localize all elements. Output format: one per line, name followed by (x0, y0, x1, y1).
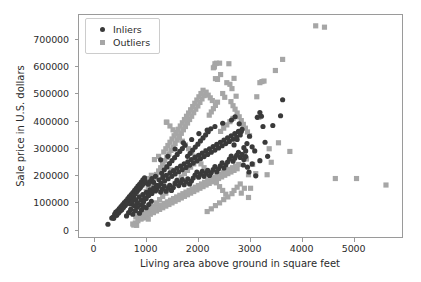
data-point (278, 113, 283, 118)
y-tick-mark (75, 175, 79, 176)
x-tick-mark (146, 238, 147, 242)
data-point (270, 123, 275, 128)
data-point (246, 195, 251, 200)
data-point (181, 140, 186, 145)
outliers-marker-icon (91, 40, 113, 45)
y-tick-label: 600000 (33, 60, 69, 71)
x-tick-mark (302, 238, 303, 242)
data-point (246, 169, 251, 174)
data-point (245, 165, 250, 170)
data-point (164, 120, 169, 125)
x-tick-mark (94, 238, 95, 242)
data-point (205, 127, 210, 132)
data-point (141, 204, 146, 209)
data-point (247, 134, 252, 139)
data-point (280, 97, 285, 102)
data-point (210, 98, 215, 103)
data-point (265, 172, 270, 177)
data-point (354, 176, 359, 181)
data-point (244, 141, 249, 146)
legend-entry-inliers: Inliers (91, 23, 150, 36)
data-point (196, 131, 201, 136)
data-point (220, 121, 225, 126)
data-point (211, 65, 216, 70)
scatter-plot-figure: 0100000200000300000400000500000600000700… (0, 0, 421, 282)
data-point (173, 146, 178, 151)
data-point (226, 61, 231, 66)
y-tick-mark (75, 230, 79, 231)
data-point (253, 173, 258, 178)
data-point (134, 223, 139, 228)
y-tick-mark (75, 66, 79, 67)
data-point (149, 199, 154, 204)
data-point (257, 158, 262, 163)
data-point (265, 154, 270, 159)
data-point (189, 137, 194, 142)
data-point (218, 72, 223, 77)
data-point (333, 176, 338, 181)
chart-legend: Inliers Outliers (85, 18, 160, 54)
data-point (313, 23, 318, 28)
data-point (158, 157, 163, 162)
data-point (146, 217, 151, 222)
data-point (212, 124, 217, 129)
data-point (231, 142, 236, 147)
legend-entry-outliers: Outliers (91, 36, 150, 49)
data-point (239, 129, 244, 134)
y-tick-mark (75, 202, 79, 203)
data-point (273, 68, 278, 73)
x-tick-mark (250, 238, 251, 242)
legend-label-outliers: Outliers (113, 37, 150, 48)
data-point (165, 154, 170, 159)
data-point (243, 154, 248, 159)
inliers-marker-icon (91, 27, 113, 32)
x-tick-label: 3000 (238, 243, 262, 254)
y-tick-label: 0 (63, 224, 69, 235)
x-tick-label: 1000 (134, 243, 158, 254)
data-point (260, 124, 265, 129)
data-point (215, 77, 220, 82)
data-point (276, 140, 281, 145)
x-tick-label: 2000 (186, 243, 210, 254)
x-tick-label: 0 (91, 243, 97, 254)
data-point (248, 186, 253, 191)
x-tick-mark (354, 238, 355, 242)
y-tick-label: 700000 (33, 33, 69, 44)
data-point (250, 161, 255, 166)
data-point (132, 208, 137, 213)
data-point (262, 140, 267, 145)
data-point (235, 137, 240, 142)
data-point (254, 94, 259, 99)
data-point (252, 148, 257, 153)
data-point (383, 182, 388, 187)
data-point (215, 100, 220, 105)
x-tick-mark (198, 238, 199, 242)
data-point (242, 186, 247, 191)
y-tick-mark (75, 121, 79, 122)
data-point (154, 183, 159, 188)
y-tick-label: 300000 (33, 142, 69, 153)
data-point (217, 61, 222, 66)
y-tick-mark (75, 39, 79, 40)
y-tick-label: 500000 (33, 88, 69, 99)
data-point (267, 146, 272, 151)
data-point (236, 162, 241, 167)
data-point (229, 86, 234, 91)
x-tick-label: 5000 (342, 243, 366, 254)
series-outliers (130, 23, 388, 228)
x-axis-title: Living area above ground in square feet (140, 258, 340, 269)
y-tick-label: 100000 (33, 197, 69, 208)
data-point (222, 95, 227, 100)
series-inliers (105, 97, 285, 227)
data-point (232, 114, 237, 119)
data-point (239, 191, 244, 196)
data-point (105, 222, 110, 227)
data-point (280, 57, 285, 62)
data-point (269, 160, 274, 165)
data-point (287, 149, 292, 154)
data-point (234, 94, 239, 99)
y-tick-label: 200000 (33, 170, 69, 181)
y-tick-mark (75, 148, 79, 149)
x-tick-label: 4000 (290, 243, 314, 254)
data-point (237, 121, 242, 126)
